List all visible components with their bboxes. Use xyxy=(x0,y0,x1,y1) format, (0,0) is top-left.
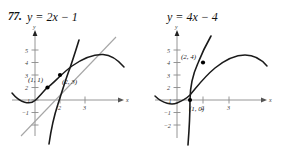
point-marker-1-1 xyxy=(45,85,49,89)
x-axis-label: x xyxy=(125,97,129,103)
point-marker-2-3 xyxy=(58,73,62,77)
y-tick-label-2: 2 xyxy=(25,84,28,91)
axes-right xyxy=(155,30,267,138)
graph-panel-left: 77. y = 2x − 1 xyxy=(0,0,144,147)
y-tick-label-neg2: −2 xyxy=(164,122,171,129)
equation-right: y = 4x − 4 xyxy=(167,10,218,25)
point-label-2-3: (2, 3) xyxy=(62,78,78,86)
graph-panel-right: y = 4x − 4 xyxy=(145,0,289,147)
y-tick-label-2: 2 xyxy=(167,84,170,91)
y-tick-label-3: 3 xyxy=(166,72,170,79)
steep-curve-left xyxy=(49,40,79,144)
y-tick-label-1: 1 xyxy=(169,97,172,104)
point-marker-2-4 xyxy=(201,60,205,64)
y-tick-label-4: 4 xyxy=(167,59,170,66)
x-tick-label-3: 3 xyxy=(226,104,230,111)
y-tick-label-5: 5 xyxy=(25,47,28,54)
problem-number: 77. xyxy=(8,10,21,22)
x-axis-label: x xyxy=(268,97,272,103)
y-tick-label-5: 5 xyxy=(167,47,170,54)
point-marker-1-0 xyxy=(188,98,192,102)
y-tick-label-neg1: −1 xyxy=(164,109,171,116)
y-axis-label: y xyxy=(32,26,36,30)
cubic-curve-right xyxy=(155,55,267,104)
y-axis-label: y xyxy=(174,26,178,30)
plot-area-right: 5 4 3 2 1 −1 −2 2 3 y x (1, 0) xyxy=(145,26,289,147)
point-label-2-4: (2, 4) xyxy=(181,53,197,61)
y-tick-label-4: 4 xyxy=(25,59,28,66)
equation-left: y = 2x − 1 xyxy=(27,10,78,25)
x-tick-label-3: 3 xyxy=(82,104,86,111)
point-label-1-0: (1, 0) xyxy=(189,105,205,113)
plot-area-left: 5 4 3 2 1 −1 2 3 y x (1, 1) xyxy=(0,26,144,147)
point-label-1-1: (1, 1) xyxy=(28,76,44,84)
exercise-figure: 77. y = 2x − 1 xyxy=(0,0,289,147)
y-tick-label-neg1: −1 xyxy=(22,109,29,116)
